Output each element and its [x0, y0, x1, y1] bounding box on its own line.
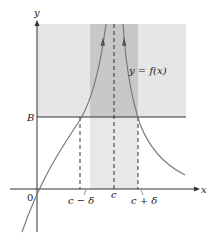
bound-label: B [26, 112, 34, 123]
origin-label: 0 [27, 192, 33, 203]
tick-label-c: c [111, 189, 117, 200]
x-axis-arrow-icon [194, 187, 200, 192]
tick-label-c-plus-delta: c + δ [131, 195, 157, 206]
infinite-limit-diagram: y x 0 B y = f(x) c − δ c c + δ [0, 0, 208, 246]
y-axis-label: y [33, 7, 40, 18]
y-axis-arrow-icon [35, 20, 40, 26]
tick-label-c-minus-delta: c − δ [68, 195, 94, 206]
curve-label: y = f(x) [128, 65, 167, 76]
x-axis-label: x [201, 184, 207, 195]
